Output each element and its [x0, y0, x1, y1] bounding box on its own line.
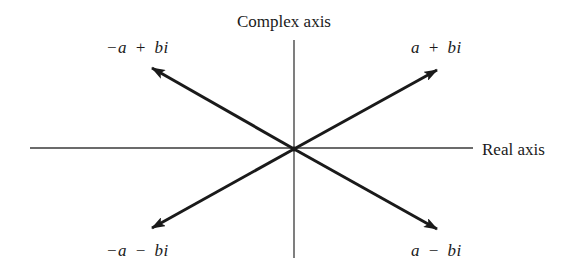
- vector-neg-a-minus-bi-arrow: [152, 149, 294, 228]
- diagram-canvas: [0, 0, 580, 272]
- label-neg-a-minus-bi: −a − bi: [106, 242, 169, 259]
- label-a-plus-bi: a + bi: [411, 39, 462, 56]
- label-neg-a-plus-bi: −a + bi: [106, 39, 169, 56]
- complex-axis-label: Complex axis: [237, 13, 331, 30]
- real-axis-label: Real axis: [482, 141, 545, 158]
- complex-plane-diagram: Complex axis Real axis −a + bi a + bi −a…: [0, 0, 580, 272]
- vector-a-minus-bi-arrow: [294, 149, 437, 229]
- vector-a-plus-bi-arrow: [294, 70, 437, 149]
- label-a-minus-bi: a − bi: [411, 242, 462, 259]
- vector-neg-a-plus-bi-arrow: [152, 68, 294, 149]
- origin-point: [292, 147, 297, 152]
